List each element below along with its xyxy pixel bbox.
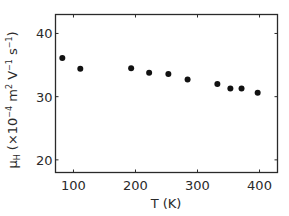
y-label-exp1: −4 [5, 106, 14, 118]
y-tick-label: 20 [36, 153, 53, 168]
data-point-marker [255, 90, 261, 96]
data-point-marker [128, 65, 134, 71]
data-point-marker [77, 66, 83, 72]
x-axis-ticks: 100200300400 [61, 15, 272, 193]
data-point-marker [146, 70, 152, 76]
svg-text:μH (×10−4 m2 V−1 s−1): μH (×10−4 m2 V−1 s−1) [5, 31, 22, 168]
y-label-unit-s: s [5, 48, 20, 59]
x-tick-label: 300 [185, 178, 210, 193]
data-point-marker [227, 85, 233, 91]
y-tick-label: 30 [36, 90, 53, 105]
y-label-close: ) [5, 31, 20, 36]
y-tick-label: 40 [36, 26, 53, 41]
y-axis-ticks: 203040 [36, 26, 278, 167]
chart: 100200300400 203040 T (K) μH (×10−4 m2 V… [0, 0, 289, 216]
y-label-unit-v: V [5, 71, 20, 84]
x-axis-title: T (K) [150, 196, 182, 211]
x-tick-label: 400 [247, 178, 272, 193]
y-label-exp3: −1 [5, 59, 14, 71]
x-tick-label: 200 [123, 178, 148, 193]
data-points [59, 55, 260, 96]
data-point-marker [214, 81, 220, 87]
y-label-open: (×10 [5, 118, 20, 155]
x-tick-label: 100 [61, 178, 86, 193]
data-point-marker [165, 71, 171, 77]
y-label-symbol: μ [5, 160, 20, 168]
data-point-marker [239, 85, 245, 91]
y-axis-title: μH (×10−4 m2 V−1 s−1) [5, 31, 22, 168]
plot-frame [56, 15, 278, 173]
y-label-exp4: −1 [5, 36, 14, 48]
y-label-unit-m: m [5, 89, 20, 106]
data-point-marker [185, 77, 191, 83]
data-point-marker [59, 55, 65, 61]
